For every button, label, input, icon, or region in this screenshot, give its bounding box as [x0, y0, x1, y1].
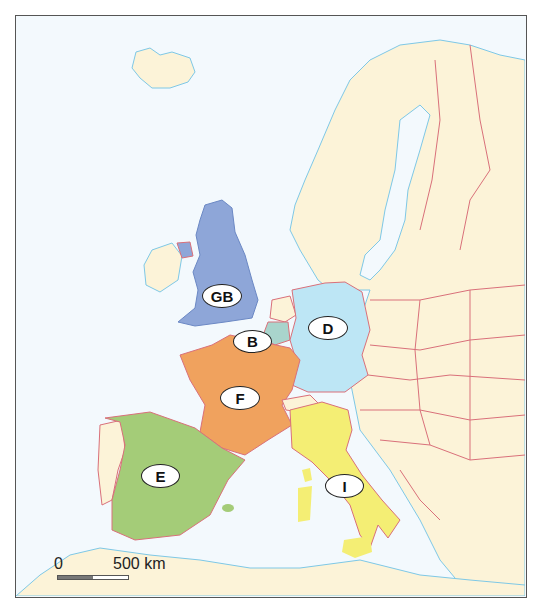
label-gb: GB: [202, 284, 242, 308]
ireland: [144, 243, 182, 292]
label-i: I: [325, 474, 364, 498]
label-e: E: [141, 464, 180, 488]
scale-bar: [57, 575, 129, 580]
scale-end-label: 500 km: [113, 555, 165, 573]
europe-map: [0, 0, 539, 616]
label-d: D: [308, 316, 348, 340]
iceland: [132, 48, 195, 88]
label-b: B: [233, 330, 272, 353]
scale-start-label: 0: [54, 555, 63, 573]
netherlands: [270, 296, 296, 322]
label-f: F: [220, 386, 260, 410]
